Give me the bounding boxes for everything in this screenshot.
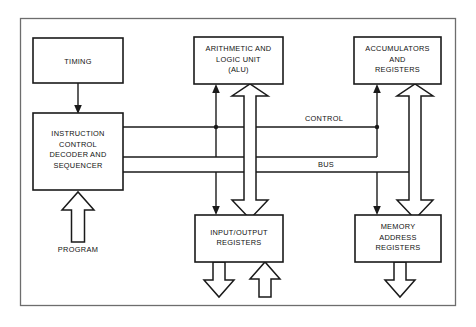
block-input-output-registers: INPUT/OUTPUT REGISTERS — [195, 215, 283, 262]
block-instruction-label-1: INSTRUCTION — [51, 129, 104, 138]
block-instruction-label-2: CONTROL — [59, 140, 97, 149]
block-memory-label-2: ADDRESS — [379, 233, 416, 242]
bus-line-label: BUS — [318, 160, 334, 169]
block-diagram-svg: TIMING INSTRUCTION CONTROL DECODER AND S… — [0, 0, 476, 327]
block-memory-address-registers: MEMORY ADDRESS REGISTERS — [355, 215, 441, 262]
block-accumulators-label-3: REGISTERS — [375, 65, 420, 74]
block-timing: TIMING — [33, 38, 123, 83]
block-alu-label-2: LOGIC UNIT — [216, 55, 261, 64]
block-accumulators-label-1: ACCUMULATORS — [365, 44, 429, 53]
block-diagram-canvas: TIMING INSTRUCTION CONTROL DECODER AND S… — [0, 0, 476, 327]
block-io-label-2: REGISTERS — [217, 238, 262, 247]
block-accumulators-label-2: AND — [389, 55, 405, 64]
block-memory-label-3: REGISTERS — [376, 243, 421, 252]
block-memory-label-1: MEMORY — [381, 222, 416, 231]
block-instruction-label-3: DECODER AND — [50, 150, 107, 159]
program-input-label: PROGRAM — [58, 245, 98, 254]
block-instruction-label-4: SEQUENCER — [53, 161, 102, 170]
block-accumulators-and-registers: ACCUMULATORS AND REGISTERS — [354, 37, 441, 84]
block-alu-label-3: (ALU) — [228, 65, 249, 74]
block-alu-label-1: ARITHMETIC AND — [206, 44, 272, 53]
block-timing-label-1: TIMING — [64, 57, 91, 66]
block-instruction-control-decoder-sequencer: INSTRUCTION CONTROL DECODER AND SEQUENCE… — [33, 113, 123, 190]
control-line-label: CONTROL — [305, 114, 343, 123]
block-io-label-1: INPUT/OUTPUT — [210, 228, 268, 237]
block-arithmetic-logic-unit: ARITHMETIC AND LOGIC UNIT (ALU) — [194, 37, 283, 84]
